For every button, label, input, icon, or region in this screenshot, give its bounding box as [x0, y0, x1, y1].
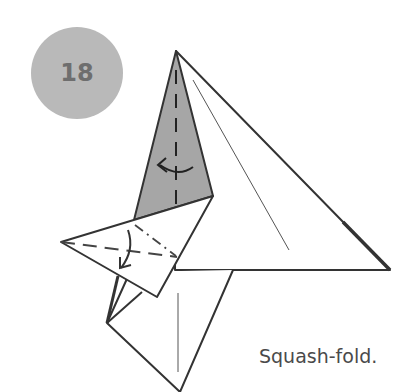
origami-diagram: [0, 0, 415, 392]
instruction-caption: Squash-fold.: [259, 345, 377, 367]
bottom-flap: [107, 270, 233, 392]
